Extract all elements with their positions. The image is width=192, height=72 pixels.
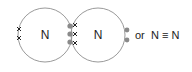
bond-dots [67,23,72,44]
atom-label-right: N [94,28,103,42]
structural-formula: N ≡ N [151,29,179,41]
or-text: or [135,29,145,41]
bond-crosses [73,23,77,45]
atom-label-left: N [41,28,50,42]
nitrogen-dot-cross-diagram: N N or N ≡ N [0,0,192,72]
